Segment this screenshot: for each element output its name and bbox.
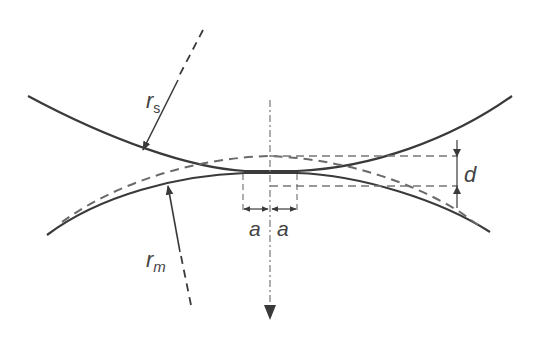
lower-surface-curve xyxy=(47,173,490,235)
rm-leader-arrow xyxy=(168,186,180,252)
rs-label: rs xyxy=(146,88,160,116)
rm-label: rm xyxy=(146,247,166,275)
down-arrow-icon xyxy=(264,305,276,320)
a-right-label: a xyxy=(277,217,289,240)
contact-geometry-diagram: rs rm a a d xyxy=(0,0,538,339)
d-label: d xyxy=(464,162,477,187)
a-left-label: a xyxy=(249,217,261,240)
rs-leader-dashed xyxy=(178,30,203,78)
d-arrow-up-icon xyxy=(453,186,461,194)
rm-leader-dashed xyxy=(181,256,192,310)
